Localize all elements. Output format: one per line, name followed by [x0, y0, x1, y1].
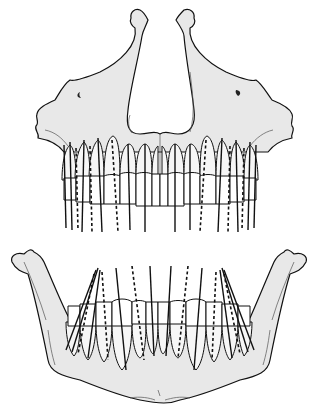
dental-arch-diagram: [0, 0, 318, 411]
